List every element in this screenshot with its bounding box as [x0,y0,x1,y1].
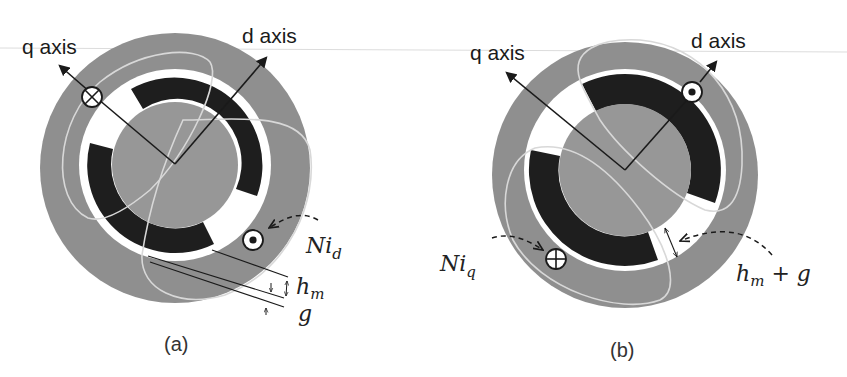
current-label-b: Niq [439,251,476,281]
panel-b: q axis d axis Niq hm + g (b) [439,29,811,361]
hm-g-label-b: hm + g [736,261,811,290]
caption-a: (a) [164,333,188,355]
q-axis-label-a: q axis [22,35,77,58]
q-axis-label-b: q axis [470,41,525,64]
d-axis-label-b: d axis [691,29,746,52]
current-dot-icon-b [682,82,702,102]
current-cross-icon-b [546,249,566,269]
caption-b: (b) [610,339,634,361]
hm-dimension-arrow-a [286,281,287,296]
current-dot-icon-a [243,230,263,250]
current-label-a: Nid [305,233,342,263]
hm-label-a: hm [296,274,324,303]
rotor-a [112,102,238,228]
motor-diagram-figure: q axis d axis Nid hm g (a) [0,0,847,377]
g-label-a: g [298,301,312,326]
d-axis-label-a: d axis [242,24,297,47]
panel-a: q axis d axis Nid hm g (a) [22,24,342,355]
current-cross-icon-a [82,87,102,107]
